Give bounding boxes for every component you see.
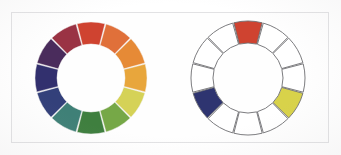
wheel-segment-blue-violet bbox=[191, 63, 214, 91]
full-color-wheel bbox=[34, 21, 148, 135]
wheel-segment-green bbox=[234, 111, 262, 134]
triadic-scheme-wheel-svg bbox=[190, 20, 306, 136]
wheel-segment-yellow-orange bbox=[282, 63, 305, 91]
wheel-segment-blue-violet bbox=[35, 64, 58, 92]
wheel-segment-green bbox=[77, 110, 105, 133]
wheel-segment-yellow-orange bbox=[124, 64, 147, 92]
triadic-scheme-wheel bbox=[190, 20, 306, 136]
full-color-wheel-svg bbox=[34, 21, 148, 135]
wheel-segment-red bbox=[77, 21, 105, 44]
wheel-segment-red bbox=[234, 20, 262, 43]
figure-frame bbox=[11, 12, 329, 143]
color-wheel-figure bbox=[0, 0, 341, 155]
